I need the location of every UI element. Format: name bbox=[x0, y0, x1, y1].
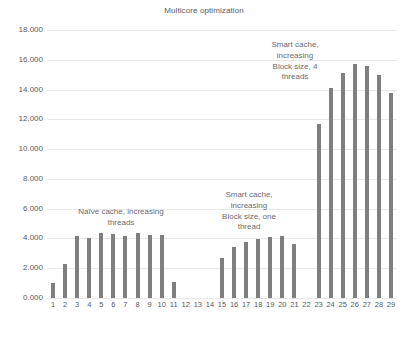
x-axis-tick-label: 3 bbox=[75, 300, 79, 309]
bar-slot bbox=[385, 30, 397, 298]
bar[interactable] bbox=[232, 247, 236, 298]
bar[interactable] bbox=[111, 234, 115, 298]
bar[interactable] bbox=[172, 282, 176, 298]
y-axis-tick-label: 0.000 bbox=[0, 294, 43, 302]
bar[interactable] bbox=[389, 93, 393, 298]
x-axis-tick-label: 10 bbox=[157, 300, 165, 309]
bar-slot bbox=[361, 30, 373, 298]
bar[interactable] bbox=[160, 235, 164, 298]
x-axis-tick-label: 29 bbox=[387, 300, 395, 309]
x-axis-tick-label: 11 bbox=[170, 300, 178, 309]
bar[interactable] bbox=[377, 75, 381, 298]
x-axis-tick-label: 5 bbox=[99, 300, 103, 309]
y-axis-tick-label: 4.000 bbox=[0, 234, 43, 242]
bar[interactable] bbox=[87, 238, 91, 298]
x-axis-tick-label: 18 bbox=[254, 300, 262, 309]
bar[interactable] bbox=[99, 233, 103, 299]
x-axis-tick-label: 25 bbox=[339, 300, 347, 309]
x-axis-tick-label: 21 bbox=[290, 300, 298, 309]
chart-container: Multicore optimization 18.00016.00014.00… bbox=[0, 0, 408, 342]
bar[interactable] bbox=[329, 88, 333, 298]
bar-slot bbox=[168, 30, 180, 298]
x-axis: 1234567891011121314151617181920212223242… bbox=[47, 300, 397, 316]
bar[interactable] bbox=[63, 264, 67, 298]
x-axis-tick-label: 6 bbox=[111, 300, 115, 309]
x-axis-tick-label: 22 bbox=[302, 300, 310, 309]
x-axis-tick-label: 1 bbox=[51, 300, 55, 309]
bar-slot bbox=[131, 30, 143, 298]
bar-slot bbox=[59, 30, 71, 298]
x-axis-tick-label: 13 bbox=[194, 300, 202, 309]
x-axis-tick-label: 28 bbox=[375, 300, 383, 309]
bar-slot bbox=[83, 30, 95, 298]
bar[interactable] bbox=[317, 124, 321, 298]
x-axis-tick-label: 4 bbox=[87, 300, 91, 309]
bar[interactable] bbox=[292, 244, 296, 298]
bar-slot bbox=[349, 30, 361, 298]
bar-slot bbox=[119, 30, 131, 298]
x-axis-tick-label: 27 bbox=[363, 300, 371, 309]
chart-title: Multicore optimization bbox=[0, 6, 408, 15]
bar[interactable] bbox=[123, 236, 127, 298]
bar-slot bbox=[156, 30, 168, 298]
bar-slot bbox=[192, 30, 204, 298]
gridline bbox=[47, 298, 397, 299]
annotation-naive-cache: Naïve cache, increasing threads bbox=[48, 207, 194, 229]
annotation-smart-cache-four-threads: Smart cache, increasing Block size, 4 th… bbox=[240, 40, 350, 83]
bar-slot bbox=[180, 30, 192, 298]
x-axis-tick-label: 9 bbox=[147, 300, 151, 309]
bar[interactable] bbox=[148, 235, 152, 298]
bar-slot bbox=[47, 30, 59, 298]
bar[interactable] bbox=[136, 233, 140, 299]
bar[interactable] bbox=[244, 242, 248, 298]
bar[interactable] bbox=[365, 66, 369, 298]
bar-slot bbox=[144, 30, 156, 298]
bar-slot bbox=[204, 30, 216, 298]
x-axis-tick-label: 15 bbox=[218, 300, 226, 309]
bar-slot bbox=[71, 30, 83, 298]
bar[interactable] bbox=[256, 239, 260, 298]
x-axis-tick-label: 7 bbox=[123, 300, 127, 309]
y-axis-tick-label: 2.000 bbox=[0, 264, 43, 272]
y-axis-tick-label: 18.000 bbox=[0, 26, 43, 34]
x-axis-tick-label: 2 bbox=[63, 300, 67, 309]
x-axis-tick-label: 8 bbox=[135, 300, 139, 309]
bar[interactable] bbox=[51, 283, 55, 298]
y-axis-tick-label: 12.000 bbox=[0, 115, 43, 123]
bar-slot bbox=[107, 30, 119, 298]
bar-slot bbox=[216, 30, 228, 298]
x-axis-tick-label: 24 bbox=[326, 300, 334, 309]
y-axis-tick-label: 6.000 bbox=[0, 205, 43, 213]
bar-slot bbox=[95, 30, 107, 298]
x-axis-tick-label: 16 bbox=[230, 300, 238, 309]
x-axis-tick-label: 12 bbox=[182, 300, 190, 309]
bar[interactable] bbox=[268, 237, 272, 298]
y-axis-tick-label: 8.000 bbox=[0, 175, 43, 183]
bar[interactable] bbox=[341, 73, 345, 298]
x-axis-tick-label: 26 bbox=[351, 300, 359, 309]
y-axis-tick-label: 14.000 bbox=[0, 86, 43, 94]
bar-slot bbox=[228, 30, 240, 298]
x-axis-tick-label: 23 bbox=[314, 300, 322, 309]
y-axis-tick-label: 16.000 bbox=[0, 56, 43, 64]
x-axis-tick-label: 19 bbox=[266, 300, 274, 309]
x-axis-tick-label: 14 bbox=[206, 300, 214, 309]
x-axis-tick-label: 20 bbox=[278, 300, 286, 309]
x-axis-tick-label: 17 bbox=[242, 300, 250, 309]
bar[interactable] bbox=[353, 64, 357, 299]
bar[interactable] bbox=[280, 236, 284, 298]
annotation-smart-cache-one-thread: Smart cache, increasing Block size, one … bbox=[197, 190, 301, 233]
bar[interactable] bbox=[75, 236, 79, 298]
bar-slot bbox=[373, 30, 385, 298]
bar[interactable] bbox=[220, 258, 224, 298]
y-axis-tick-label: 10.000 bbox=[0, 145, 43, 153]
